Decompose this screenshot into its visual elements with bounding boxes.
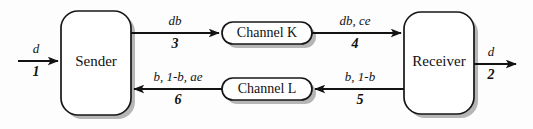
channel-l-label: Channel L bbox=[238, 81, 297, 96]
edge-input: d 1 bbox=[18, 41, 58, 79]
edge-channel-l-to-sender: b, 1-b, ae 6 bbox=[134, 69, 222, 107]
node-channel-l: Channel L bbox=[222, 78, 316, 104]
edge-input-number: 1 bbox=[33, 64, 40, 79]
edge-input-symbol: d bbox=[33, 41, 40, 56]
edge-k-to-receiver-symbol: db, ce bbox=[339, 13, 370, 28]
node-receiver: Receiver bbox=[404, 12, 478, 118]
diagram-canvas: Sender Receiver Channel K Channel L d 1 bbox=[0, 0, 533, 129]
edge-sender-to-channel-k: db 3 bbox=[131, 13, 219, 51]
edge-receiver-to-l-number: 5 bbox=[357, 92, 364, 107]
edge-l-to-sender-symbol: b, 1-b, ae bbox=[153, 69, 202, 84]
edge-channel-k-to-receiver: db, ce 4 bbox=[312, 13, 401, 51]
protocol-diagram: Sender Receiver Channel K Channel L d 1 bbox=[0, 0, 533, 129]
edge-output-symbol: d bbox=[488, 44, 495, 59]
receiver-label: Receiver bbox=[412, 53, 465, 69]
edge-receiver-to-channel-l: b, 1-b 5 bbox=[315, 69, 404, 107]
edge-sender-to-k-symbol: db bbox=[169, 13, 183, 28]
edge-receiver-to-l-symbol: b, 1-b bbox=[345, 69, 376, 84]
edge-output: d 2 bbox=[474, 44, 516, 82]
node-sender: Sender bbox=[61, 11, 135, 119]
channel-k-label: Channel K bbox=[237, 25, 297, 40]
sender-label: Sender bbox=[75, 53, 117, 69]
edge-sender-to-k-number: 3 bbox=[171, 36, 179, 51]
edge-k-to-receiver-number: 4 bbox=[351, 36, 359, 51]
node-channel-k: Channel K bbox=[222, 22, 316, 48]
edge-l-to-sender-number: 6 bbox=[175, 92, 182, 107]
edge-output-number: 2 bbox=[487, 67, 495, 82]
